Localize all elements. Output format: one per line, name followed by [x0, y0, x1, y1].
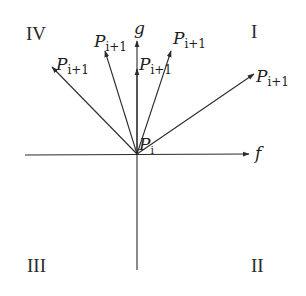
quadrant-iv-label: IV [26, 23, 46, 44]
vector-upper-left-shallow [52, 67, 137, 154]
vector-label-upper-right-shallow: Pi+1 [255, 66, 289, 89]
origin-label: Pi [138, 134, 154, 157]
vector-label-upper-right-steep: Pi+1 [172, 28, 206, 51]
quadrant-iii-label: III [27, 255, 46, 276]
vector-upper-left-steep [105, 51, 137, 154]
vector-diagram: IV I III II g f Pi Pi+1 Pi+1 Pi+1 Pi+1 P… [0, 0, 306, 296]
f-axis-label: f [253, 143, 264, 163]
vector-label-vertical: Pi+1 [138, 54, 172, 77]
g-axis-label: g [134, 18, 145, 38]
vector-label-upper-left-shallow: Pi+1 [55, 54, 89, 77]
quadrant-i-label: I [251, 21, 257, 42]
vector-label-upper-left-steep: Pi+1 [93, 31, 127, 54]
vector-upper-right-shallow [137, 74, 254, 154]
quadrant-ii-label: II [251, 255, 264, 276]
